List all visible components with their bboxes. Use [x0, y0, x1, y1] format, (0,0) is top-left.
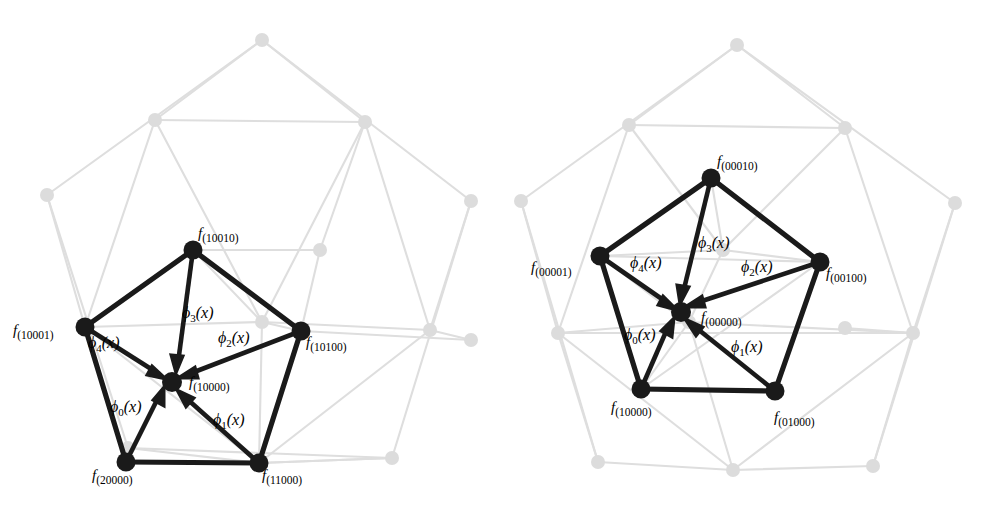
- arrow-label-left-0: ϕ0(x): [110, 398, 142, 418]
- node-label-left-1: f(10100): [306, 334, 347, 354]
- node-right-left: [591, 247, 610, 266]
- node-left-top: [184, 241, 203, 260]
- nodes-right: [591, 169, 830, 401]
- highlight-subgraph-left: [85, 250, 301, 463]
- node-label-right-center: f(00000): [701, 309, 742, 329]
- node-right-botleft: [632, 380, 651, 399]
- node-right-top: [702, 169, 721, 188]
- right-panel: f(00010) f(00100) f(01000) f(10000) f(00…: [493, 0, 993, 510]
- node-left-botleft: [117, 453, 136, 472]
- figure-container: f(10010) f(10100) f(11000) f(20000) f(10…: [0, 0, 993, 510]
- left-panel: f(10010) f(10100) f(11000) f(20000) f(10…: [0, 0, 493, 510]
- node-label-left-4: f(10001): [13, 322, 54, 342]
- background-graph-right: [514, 38, 962, 477]
- nodes-left: [76, 241, 311, 473]
- arrow-label-right-1: ϕ1(x): [731, 338, 763, 358]
- node-right-botright: [766, 382, 785, 401]
- arrow-label-right-2: ϕ2(x): [741, 258, 773, 278]
- node-right-center: [671, 302, 691, 322]
- arrow-label-left-2: ϕ2(x): [218, 329, 250, 349]
- arrow-label-left-3: ϕ3(x): [182, 304, 214, 324]
- node-left-center: [162, 372, 182, 392]
- node-label-left-2: f(11000): [262, 467, 302, 487]
- node-label-right-0: f(00010): [717, 153, 758, 173]
- arrow-label-right-4: ϕ4(x): [630, 254, 662, 274]
- node-label-left-0: f(10010): [198, 225, 239, 245]
- node-label-right-1: f(00100): [826, 265, 867, 285]
